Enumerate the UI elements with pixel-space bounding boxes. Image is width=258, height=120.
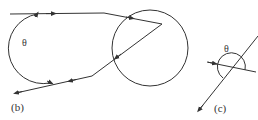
panel-b-diagram (8, 10, 188, 93)
refracted-ray (104, 13, 162, 24)
theta-arc-b (8, 14, 50, 84)
outgoing-direction-arrow (199, 105, 203, 110)
outgoing-ray (16, 76, 92, 93)
panel-label-c: (c) (214, 102, 226, 114)
panel-label-b: (b) (11, 101, 24, 113)
theta-label-c: θ (224, 43, 229, 54)
incoming-ray (10, 13, 104, 14)
outgoing-arrow-2 (16, 92, 22, 93)
theta-label-b: θ (22, 37, 27, 48)
reflected-ray (92, 24, 162, 76)
reflected-arrow (116, 54, 121, 58)
incoming-direction-arrow (208, 62, 215, 63)
